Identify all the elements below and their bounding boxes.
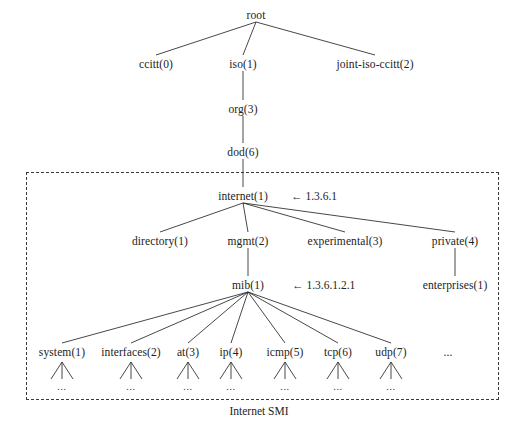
node-joint-iso-ccitt: joint-iso-ccitt(2) (336, 58, 413, 70)
node-enterprises: enterprises(1) (423, 279, 488, 291)
node-experimental: experimental(3) (308, 235, 383, 247)
ellipsis-icmp-fan: ... (280, 381, 289, 392)
node-at: at(3) (177, 346, 199, 358)
annotation-mib-oid: ← 1.3.6.1.2.1 (292, 279, 355, 291)
edge-root-to-ccitt (156, 22, 256, 55)
node-icmp: icmp(5) (266, 346, 303, 358)
smi-tree-diagram: rootccitt(0)iso(1)joint-iso-ccitt(2)org(… (0, 0, 518, 424)
edge-root-to-iso (243, 22, 256, 55)
ellipsis-interfaces-fan: ... (126, 381, 135, 392)
ellipsis-udp-fan: ... (386, 381, 395, 392)
node-internet: internet(1) (218, 190, 268, 202)
ellipsis-at-fan: ... (183, 381, 192, 392)
node-more-leaves: ... (444, 346, 453, 358)
node-directory: directory(1) (132, 235, 188, 247)
edge-root-to-joint-iso-ccitt (256, 22, 375, 55)
ellipsis-system-fan: ... (57, 381, 66, 392)
node-root: root (247, 9, 266, 21)
node-dod: dod(6) (227, 146, 258, 158)
node-org: org(3) (228, 103, 257, 115)
ellipsis-tcp-fan: ... (333, 381, 342, 392)
node-ccitt: ccitt(0) (139, 58, 173, 70)
node-interfaces: interfaces(2) (101, 346, 160, 358)
node-udp: udp(7) (375, 346, 406, 358)
node-mgmt: mgmt(2) (228, 235, 269, 247)
node-ip: ip(4) (220, 346, 243, 358)
node-iso: iso(1) (229, 58, 256, 70)
node-private: private(4) (432, 235, 478, 247)
annotation-internet-oid: ← 1.3.6.1 (291, 190, 337, 202)
diagram-caption: Internet SMI (229, 405, 288, 417)
ellipsis-ip-fan: ... (226, 381, 235, 392)
node-system: system(1) (39, 346, 85, 358)
node-tcp: tcp(6) (324, 346, 352, 358)
node-mib: mib(1) (232, 279, 264, 291)
